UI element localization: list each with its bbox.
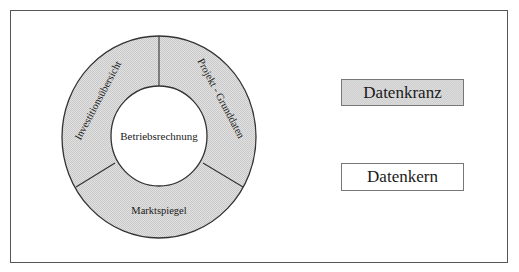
core-label: Betriebsrechnung [120, 130, 198, 142]
segment-label-marktspiegel: Marktspiegel [131, 205, 186, 216]
legend-datenkern: Datenkern [341, 163, 464, 191]
ring-diagram: Betriebsrechnung Investitionsübersicht P… [0, 0, 519, 272]
legend-datenkranz: Datenkranz [341, 79, 464, 106]
diagram-canvas: Betriebsrechnung Investitionsübersicht P… [0, 0, 519, 272]
legend-datenkern-label: Datenkern [367, 167, 438, 187]
legend-datenkranz-label: Datenkranz [363, 83, 441, 103]
